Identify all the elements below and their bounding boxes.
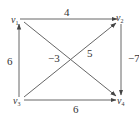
edge-v1-v4 (24, 22, 116, 96)
weight-v3-v4: 6 (73, 104, 79, 115)
vertex-v3-label: v3 (13, 95, 20, 108)
weight-v1-v2: 4 (64, 7, 70, 18)
edge-v3-v2 (24, 23, 116, 97)
weight-v1-v4: −3 (48, 53, 60, 64)
vertex-v3-sub: 3 (17, 101, 20, 107)
vertex-v4-sub: 4 (121, 101, 124, 107)
weight-v3-v2: 5 (87, 48, 93, 59)
vertex-v1-label: v1 (11, 14, 18, 27)
weight-v2-v4: −7 (128, 53, 139, 64)
vertex-v4-label: v4 (117, 95, 124, 108)
vertex-v2-label: v2 (116, 12, 123, 25)
vertex-v2-sub: 2 (120, 18, 123, 24)
vertex-v1-sub: 1 (15, 20, 18, 26)
weight-v3-v1: 6 (7, 56, 13, 67)
